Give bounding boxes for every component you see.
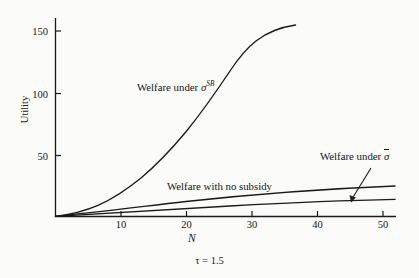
series-label-welfare-no-subsidy: Welfare with no subsidy (167, 180, 272, 192)
figure-welfare-vs-n: 150 100 50 10 20 30 40 50 Utility N Welf… (0, 0, 419, 278)
sigma-bar-symbol: σ (384, 150, 389, 162)
x-axis-label: N (188, 232, 196, 244)
series-label-welfare-sigma-sb-text: Welfare under (137, 81, 201, 93)
plot-area (0, 0, 419, 278)
series-label-welfare-sigma-sb: Welfare under σSB (137, 80, 215, 93)
series-label-welfare-sigma-bar-text: Welfare under (320, 150, 384, 162)
x-tick-label-50: 50 (378, 219, 389, 230)
series-label-welfare-sigma-bar: Welfare under σ (320, 150, 389, 162)
sigma-superscript-sb: SB (206, 80, 214, 88)
y-tick-label-50: 50 (14, 150, 48, 161)
x-tick-marks (121, 211, 383, 217)
x-tick-label-40: 40 (312, 219, 323, 230)
x-tick-label-30: 30 (247, 219, 258, 230)
annotation-arrow-sigma-bar (350, 168, 371, 202)
y-tick-marks (56, 31, 62, 156)
y-tick-label-150: 150 (14, 26, 48, 37)
y-axis-label: Utility (19, 80, 30, 140)
figure-caption: τ = 1.5 (0, 255, 419, 266)
x-tick-label-20: 20 (181, 219, 192, 230)
x-tick-label-10: 10 (116, 219, 127, 230)
